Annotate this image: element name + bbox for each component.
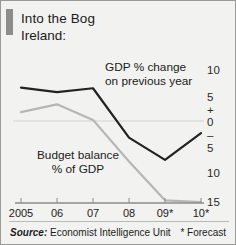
y-tick-label: – bbox=[207, 130, 233, 141]
budget-annotation-line2: % of GDP bbox=[37, 163, 119, 177]
x-tick-label: 2005 bbox=[9, 207, 33, 219]
chart-figure: Into the Bog Ireland: 105+0–51015 200506… bbox=[0, 0, 236, 245]
x-tick-label: 08 bbox=[123, 207, 135, 219]
y-tick-label: 10 bbox=[207, 168, 233, 179]
y-tick-label: 15 bbox=[207, 197, 233, 208]
x-tick-label: 07 bbox=[87, 207, 99, 219]
source-note: Source: Economist Intelligence Unit bbox=[10, 227, 171, 238]
y-tick-label: 10 bbox=[207, 65, 233, 76]
x-tick-label: 06 bbox=[51, 207, 63, 219]
gdp-annotation-line2: on previous year bbox=[105, 74, 192, 88]
y-tick-label: 5 bbox=[207, 143, 233, 154]
footer-divider bbox=[9, 221, 229, 222]
gdp-annotation-line1: GDP % change bbox=[105, 60, 186, 74]
budget-annotation-line1: Budget balance bbox=[37, 148, 119, 162]
x-tick-label: 10* bbox=[193, 207, 210, 219]
y-tick-label: 5 bbox=[207, 92, 233, 103]
forecast-note: * Forecast bbox=[180, 227, 226, 238]
x-tick-label: 09* bbox=[157, 207, 174, 219]
gdp-annotation: GDP % change on previous year bbox=[105, 61, 192, 88]
source-label: Source: bbox=[10, 227, 47, 238]
y-tick-label: 0 bbox=[207, 117, 233, 128]
budget-annotation: Budget balance % of GDP bbox=[37, 149, 119, 176]
y-tick-label: + bbox=[207, 105, 233, 116]
source-text: Economist Intelligence Unit bbox=[47, 227, 170, 238]
